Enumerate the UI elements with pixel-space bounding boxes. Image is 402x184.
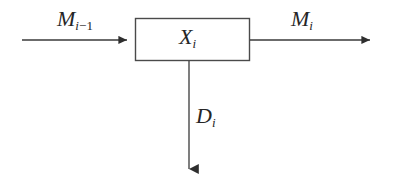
block-diagram: Mi−1 Xi Mi Di [0, 0, 402, 184]
input-flow-label-subscript: i−1 [75, 18, 93, 33]
output-flow-label-base: M [291, 6, 309, 31]
input-flow-label-base: M [57, 6, 75, 31]
process-block-label: Xi [179, 26, 196, 50]
output-flow-label: Mi [291, 8, 313, 32]
input-subscript-number: 1 [86, 18, 93, 33]
demand-flow-label: Di [196, 105, 216, 129]
process-block-label-base: X [179, 24, 192, 49]
demand-flow-label-base: D [196, 103, 212, 128]
output-flow-label-subscript: i [309, 18, 313, 33]
process-block-label-subscript: i [192, 36, 196, 51]
demand-flow-label-subscript: i [212, 115, 216, 130]
input-flow-label: Mi−1 [57, 8, 93, 32]
